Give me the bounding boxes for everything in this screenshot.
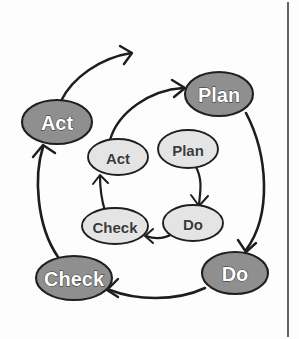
- arrow-inner-do-to-check: [146, 234, 172, 238]
- pdca-diagram-figure: Plan Do Check Act Plan Do: [0, 0, 299, 339]
- node-inner-plan[interactable]: Plan: [158, 130, 218, 168]
- node-outer-act[interactable]: Act: [22, 100, 92, 144]
- node-outer-act-label: Act: [41, 112, 74, 134]
- node-outer-plan-label: Plan: [198, 84, 240, 106]
- node-inner-check-label: Check: [92, 219, 138, 236]
- arrow-outer-act-spiral-exit: [61, 53, 131, 101]
- arrow-outer-plan-to-do: [246, 113, 264, 250]
- arrow-inner-plan-to-do: [196, 167, 201, 205]
- node-outer-plan[interactable]: Plan: [185, 72, 253, 116]
- pdca-diagram-canvas: Plan Do Check Act Plan Do: [0, 0, 299, 339]
- node-inner-act-label: Act: [106, 150, 130, 167]
- node-inner-act[interactable]: Act: [88, 139, 148, 175]
- node-outer-do-label: Do: [222, 263, 249, 285]
- node-outer-check[interactable]: Check: [36, 256, 112, 300]
- arrow-inner-check-to-act: [100, 176, 105, 211]
- inner-cycle-nodes: Plan Do Check Act: [82, 130, 223, 244]
- node-inner-do-label: Do: [183, 216, 203, 233]
- node-inner-do[interactable]: Do: [163, 205, 223, 241]
- arrow-outer-check-to-act: [38, 147, 58, 257]
- node-outer-do[interactable]: Do: [202, 252, 268, 294]
- node-inner-plan-label: Plan: [172, 142, 204, 159]
- node-inner-check[interactable]: Check: [82, 208, 148, 244]
- arrowhead-outer-do: [238, 240, 256, 252]
- arrowhead-outer-act: [33, 145, 55, 157]
- arrow-outer-do-to-check: [110, 288, 205, 298]
- node-outer-check-label: Check: [44, 268, 105, 290]
- outer-cycle-nodes: Plan Do Check Act: [22, 72, 268, 300]
